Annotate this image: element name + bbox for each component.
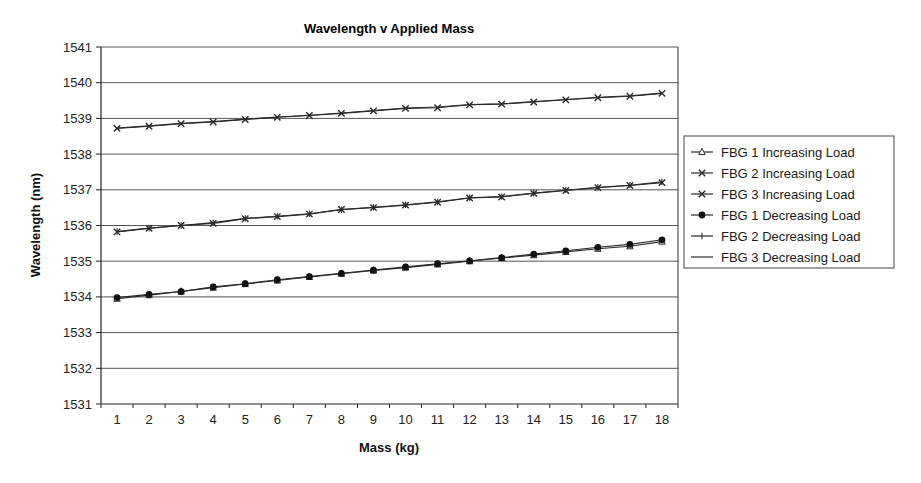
x-tick-label: 6 bbox=[274, 412, 281, 427]
legend-label: FBG 2 Decreasing Load bbox=[721, 229, 860, 244]
x-tick-label: 11 bbox=[431, 412, 445, 427]
y-tick-label: 1534 bbox=[63, 289, 92, 304]
series-1 bbox=[114, 238, 665, 302]
chart-title: Wavelength v Applied Mass bbox=[304, 21, 474, 36]
x-tick-label: 17 bbox=[623, 412, 637, 427]
legend: FBG 1 Increasing LoadFBG 2 Increasing Lo… bbox=[684, 136, 894, 268]
circle-marker-icon bbox=[306, 273, 313, 280]
x-tick-label: 7 bbox=[306, 412, 313, 427]
x-tick-label: 5 bbox=[242, 412, 249, 427]
legend-label: FBG 1 Increasing Load bbox=[721, 145, 855, 160]
chart-canvas: Wavelength v Applied Mass 15311532153315… bbox=[0, 0, 921, 483]
data-series bbox=[114, 90, 666, 301]
series-line bbox=[117, 93, 662, 128]
x-axis-label: Mass (kg) bbox=[359, 440, 419, 455]
circle-marker-icon bbox=[242, 280, 249, 287]
circle-marker-icon bbox=[659, 236, 666, 243]
circle-marker-icon bbox=[699, 212, 706, 219]
x-tick-label: 12 bbox=[462, 412, 476, 427]
y-tick-label: 1540 bbox=[63, 75, 92, 90]
legend-label: FBG 3 Increasing Load bbox=[721, 187, 855, 202]
y-tick-label: 1531 bbox=[63, 397, 92, 412]
circle-marker-icon bbox=[338, 270, 345, 277]
circle-marker-icon bbox=[114, 294, 121, 301]
x-tick-label: 10 bbox=[398, 412, 412, 427]
circle-marker-icon bbox=[402, 264, 409, 271]
circle-marker-icon bbox=[594, 244, 601, 251]
circle-marker-icon bbox=[146, 291, 153, 298]
y-tick-label: 1541 bbox=[63, 40, 92, 55]
y-tick-label: 1539 bbox=[63, 111, 92, 126]
x-tick-label: 14 bbox=[527, 412, 541, 427]
y-tick-label: 1537 bbox=[63, 182, 92, 197]
x-tick-label: 4 bbox=[210, 412, 217, 427]
x-tick-label: 1 bbox=[113, 412, 120, 427]
circle-marker-icon bbox=[466, 257, 473, 264]
y-axis-label: Wavelength (nm) bbox=[28, 173, 43, 277]
gridlines bbox=[101, 47, 678, 368]
series-2 bbox=[114, 179, 665, 235]
legend-label: FBG 3 Decreasing Load bbox=[721, 250, 860, 265]
x-tick-label: 9 bbox=[370, 412, 377, 427]
x-tick-label: 18 bbox=[655, 412, 669, 427]
y-tick-label: 1536 bbox=[63, 218, 92, 233]
x-tick-label: 13 bbox=[494, 412, 508, 427]
circle-marker-icon bbox=[178, 288, 185, 295]
x-tick-label: 3 bbox=[178, 412, 185, 427]
y-tick-label: 1532 bbox=[63, 361, 92, 376]
circle-marker-icon bbox=[434, 260, 441, 267]
x-tick-label: 2 bbox=[145, 412, 152, 427]
x-tick-label: 16 bbox=[591, 412, 605, 427]
series-line bbox=[117, 242, 662, 299]
circle-marker-icon bbox=[562, 247, 569, 254]
y-tick-label: 1535 bbox=[63, 254, 92, 269]
series-line bbox=[117, 240, 662, 298]
y-tick-label: 1538 bbox=[63, 147, 92, 162]
circle-marker-icon bbox=[370, 267, 377, 274]
legend-label: FBG 1 Decreasing Load bbox=[721, 208, 860, 223]
circle-marker-icon bbox=[627, 241, 634, 248]
series-3 bbox=[114, 90, 665, 131]
circle-marker-icon bbox=[530, 251, 537, 258]
legend-label: FBG 2 Increasing Load bbox=[721, 166, 855, 181]
x-axis-ticks: 123456789101112131415161718 bbox=[101, 404, 678, 427]
series-6 bbox=[117, 93, 662, 128]
y-tick-label: 1533 bbox=[63, 325, 92, 340]
series-4 bbox=[114, 236, 666, 301]
y-axis-ticks: 1531153215331534153515361537153815391540… bbox=[63, 40, 101, 412]
circle-marker-icon bbox=[498, 254, 505, 261]
x-tick-label: 15 bbox=[559, 412, 573, 427]
x-tick-label: 8 bbox=[338, 412, 345, 427]
circle-marker-icon bbox=[210, 284, 217, 291]
circle-marker-icon bbox=[274, 276, 281, 283]
